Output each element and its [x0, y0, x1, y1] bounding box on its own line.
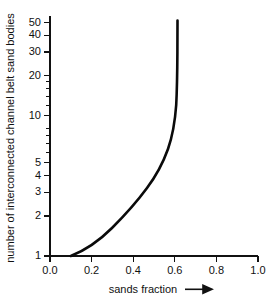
data-curve — [71, 21, 178, 257]
x-tick-label-0: 0.0 — [42, 264, 57, 276]
chart-page: 1 2 3 4 5 10 20 30 40 50 0.0 0.2 0.4 0.6… — [0, 0, 277, 301]
x-tick-label-0-8: 0.8 — [209, 264, 224, 276]
y-axis-title: number of interconnected channel belt sa… — [4, 13, 16, 263]
x-axis-group: 0.0 0.2 0.4 0.6 0.8 1.0 — [42, 256, 265, 276]
y-tick-label-40: 40 — [29, 28, 41, 40]
y-tick-label-30: 30 — [29, 45, 41, 57]
x-axis-arrow-head — [203, 285, 212, 293]
x-tick-label-0-2: 0.2 — [84, 264, 99, 276]
x-axis-title: sands fraction — [109, 283, 177, 295]
x-tick-label-0-6: 0.6 — [167, 264, 182, 276]
y-tick-label-50: 50 — [29, 16, 41, 28]
y-tick-label-10: 10 — [29, 109, 41, 121]
x-axis-title-group: sands fraction — [109, 283, 212, 295]
chart-canvas: 1 2 3 4 5 10 20 30 40 50 0.0 0.2 0.4 0.6… — [0, 0, 277, 301]
x-tick-label-0-4: 0.4 — [126, 264, 141, 276]
y-axis-group: 1 2 3 4 5 10 20 30 40 50 — [29, 16, 50, 261]
y-tick-label-2: 2 — [35, 209, 41, 221]
y-tick-label-1: 1 — [35, 249, 41, 261]
y-tick-label-3: 3 — [35, 185, 41, 197]
y-tick-label-5: 5 — [35, 156, 41, 168]
y-tick-label-4: 4 — [35, 169, 41, 181]
y-major-ticks — [44, 23, 50, 256]
x-tick-label-1-0: 1.0 — [250, 264, 265, 276]
y-tick-label-20: 20 — [29, 69, 41, 81]
